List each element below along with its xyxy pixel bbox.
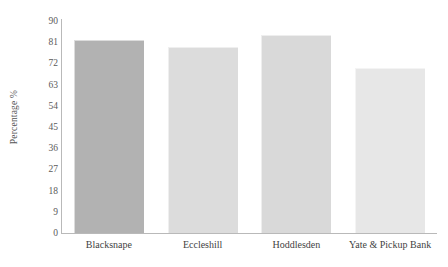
x-axis-line	[62, 233, 437, 234]
x-axis-tick-labels: BlacksnapeEccleshillHoddlesdenYate & Pic…	[62, 238, 437, 262]
y-axis-tick-label: 90	[28, 16, 58, 26]
bar	[261, 35, 331, 233]
bar	[168, 47, 238, 233]
y-axis-title-text: Percentage %	[9, 89, 19, 143]
y-axis-tick-label: 36	[28, 143, 58, 153]
bar-chart: Percentage % 09182736455463728190 Blacks…	[0, 0, 448, 267]
x-axis-tick-label: Yate & Pickup Bank	[330, 238, 448, 252]
y-axis-tick-label: 9	[28, 207, 58, 217]
y-axis-tick-label: 45	[28, 122, 58, 132]
plot-area	[62, 21, 436, 233]
y-axis-tick-label: 81	[28, 37, 58, 47]
y-axis-tick-label: 72	[28, 58, 58, 68]
y-axis-tick-label: 0	[28, 228, 58, 238]
y-axis-tick-label: 63	[28, 80, 58, 90]
y-axis-tick-label: 54	[28, 101, 58, 111]
y-axis-title: Percentage %	[0, 0, 28, 233]
bar	[74, 40, 144, 233]
bar	[355, 68, 425, 233]
y-axis-tick-labels: 09182736455463728190	[28, 0, 58, 267]
y-axis-tick-label: 27	[28, 164, 58, 174]
y-axis-tick-label: 18	[28, 186, 58, 196]
